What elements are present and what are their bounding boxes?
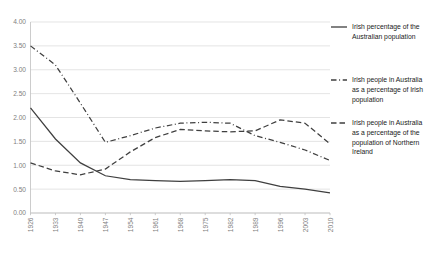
x-axis-tick-label: 1933 [52,217,59,232]
y-axis-tick-label: 0.00 [13,209,26,216]
x-axis-tick-label: 1961 [152,217,159,232]
x-axis-tick-label: 1989 [252,217,259,232]
legend-label-2: Irish people in Australia [352,76,422,84]
legend-label-3: Irish people in Australia [352,119,422,127]
y-axis-tick-label: 3.00 [13,66,26,73]
x-axis-tick-label: 1940 [77,217,84,232]
x-axis-tick-label: 1926 [27,217,34,232]
y-axis-tick-label: 1.50 [13,138,26,145]
x-axis-tick-label: 1947 [102,217,109,232]
line-chart: 0.000.501.001.502.002.503.003.504.00 192… [0,0,445,258]
legend-label-1: Irish percentage of the [352,23,420,31]
legend-label-2: as a percentage of Irish [352,86,423,94]
y-axis-tick-label: 1.00 [13,162,26,169]
x-axis-tick-label: 1982 [227,217,234,232]
x-axis-tick-label: 2010 [327,217,334,232]
x-axis-tick-label: 2003 [302,217,309,232]
chart-canvas: 0.000.501.001.502.002.503.003.504.00 192… [0,0,445,258]
y-axis-tick-label: 2.00 [13,114,26,121]
legend-label-1: Australian population [352,33,416,41]
y-axis-tick-label: 0.50 [13,186,26,193]
x-axis-tick-label: 1996 [277,217,284,232]
legend-label-3: as a percentage of the [352,129,420,137]
x-axis-tick-label: 1975 [202,217,209,232]
y-axis-tick-label: 3.50 [13,42,26,49]
legend-label-2: population [352,96,384,104]
x-axis-tick-label: 1968 [177,217,184,232]
legend-label-3: population of Northern [352,139,419,147]
legend-label-3: Ireland [352,148,373,155]
y-axis-tick-label: 4.00 [13,18,26,25]
x-axis-tick-label: 1954 [127,217,134,232]
y-axis-tick-labels: 0.000.501.001.502.002.503.003.504.00 [13,18,26,216]
y-axis-tick-label: 2.50 [13,90,26,97]
